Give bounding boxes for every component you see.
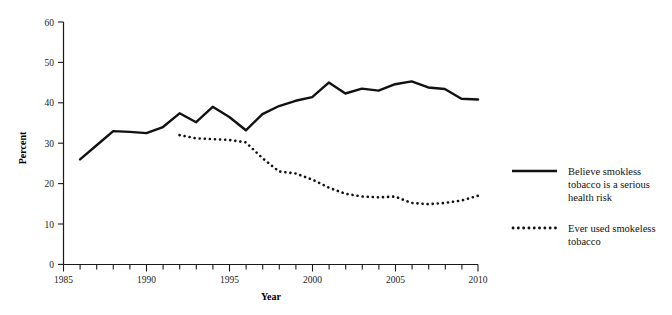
y-tick-label-30: 30 (45, 139, 55, 149)
x-tick-label-2000: 2000 (303, 275, 322, 285)
y-tick-label-0: 0 (49, 260, 54, 270)
x-tick-label-1995: 1995 (220, 275, 239, 285)
legend-label-line1: Believe smokless (568, 166, 641, 177)
legend-label2-line1: Ever used smokeless (568, 223, 655, 234)
legend-label-line3: health risk (568, 192, 613, 203)
chart-background (0, 0, 672, 315)
x-tick-label-1985: 1985 (54, 275, 73, 285)
y-tick-label-20: 20 (45, 179, 55, 189)
y-tick-label-10: 10 (45, 220, 55, 230)
x-tick-label-1990: 1990 (137, 275, 156, 285)
chart-svg: 60 50 40 30 20 10 0 Percent (0, 0, 672, 315)
y-axis-title: Percent (17, 131, 28, 164)
y-tick-label-50: 50 (45, 58, 55, 68)
legend-label2-line2: tobacco (568, 236, 601, 247)
x-axis-title: Year (261, 291, 282, 302)
chart-figure: 60 50 40 30 20 10 0 Percent (0, 0, 672, 315)
x-tick-label-2010: 2010 (469, 275, 488, 285)
legend-label-line2: tobacco is a serious (568, 179, 650, 190)
x-tick-label-2005: 2005 (386, 275, 405, 285)
y-tick-label-60: 60 (45, 18, 55, 28)
y-tick-label-40: 40 (45, 98, 55, 108)
